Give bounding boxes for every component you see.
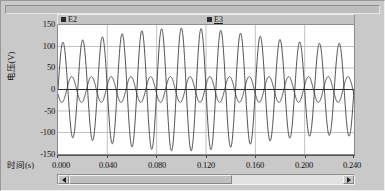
y-axis-tick-labels: 150 100 50 0 -50 -100 -150 xyxy=(22,24,55,155)
legend-square-marker-icon xyxy=(207,17,212,22)
x-tick-label: 0.000 xyxy=(52,160,70,170)
legend-square-marker-icon xyxy=(61,17,66,22)
y-tick-label: 50 xyxy=(29,63,55,72)
waveform-viewer: 电压(V) 150 100 50 0 -50 -100 -150 E2 E3 xyxy=(0,0,385,191)
scrollbar-track[interactable] xyxy=(232,175,343,184)
x-tick-label: 0.240 xyxy=(343,160,361,170)
horizontal-scrollbar[interactable] xyxy=(57,174,355,185)
legend-item-label: E2 xyxy=(68,15,77,24)
legend-item-label: E3 xyxy=(214,15,223,24)
x-tick-label: 0.200 xyxy=(295,160,313,170)
x-axis-title: 时间(s) xyxy=(7,160,34,170)
x-axis-labels: 时间(s) 0.000 0.040 0.080 0.120 0.160 0.20… xyxy=(0,158,385,171)
legend-item-e2[interactable]: E2 xyxy=(61,14,77,25)
legend: E2 E3 xyxy=(57,14,355,25)
y-tick-label: -50 xyxy=(29,107,55,116)
scrollbar-thumb[interactable] xyxy=(69,175,232,184)
x-tick-label: 0.120 xyxy=(197,160,215,170)
waveform-canvas xyxy=(58,25,354,154)
legend-item-e3[interactable]: E3 xyxy=(207,14,223,25)
scroll-left-button[interactable] xyxy=(58,175,69,184)
x-tick-label: 0.160 xyxy=(246,160,264,170)
x-tick-label: 0.080 xyxy=(148,160,166,170)
y-tick-label: 0 xyxy=(29,85,55,94)
y-tick-label: 150 xyxy=(29,20,55,29)
y-tick-label: -100 xyxy=(29,128,55,137)
plot-area[interactable] xyxy=(57,24,355,155)
y-tick-label: 100 xyxy=(29,42,55,51)
top-toolbar-strip xyxy=(5,5,380,14)
x-tick-label: 0.040 xyxy=(99,160,117,170)
y-axis-title: 电压(V) xyxy=(7,40,16,94)
scroll-right-button[interactable] xyxy=(343,175,354,184)
triangle-right-icon xyxy=(347,177,351,183)
triangle-left-icon xyxy=(62,177,66,183)
